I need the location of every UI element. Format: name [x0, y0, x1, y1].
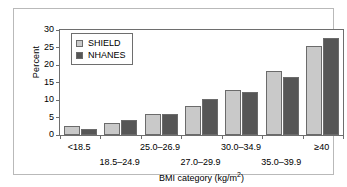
bar-nhanes: [121, 120, 137, 135]
y-axis-tick-mark: [56, 47, 60, 48]
legend-item-shield: SHIELD: [76, 37, 126, 49]
legend-swatch: [76, 52, 83, 59]
bar-shield: [185, 106, 201, 135]
x-axis-title: BMI category (kg/m2): [59, 171, 344, 183]
bar-group: [306, 30, 339, 135]
y-axis-tick-label: 5: [49, 112, 54, 122]
x-axis-title-base: BMI category (kg/m: [159, 173, 237, 183]
legend: SHIELDNHANES: [71, 33, 133, 65]
x-axis-category-label: ≥40: [314, 142, 329, 152]
bar-shield: [104, 123, 120, 135]
bar-shield: [64, 126, 80, 135]
bar-shield: [266, 71, 282, 135]
x-axis-tick-mark: [100, 135, 101, 139]
x-axis-tick-mark: [343, 135, 344, 139]
bar-nhanes: [283, 77, 299, 135]
bar-shield: [306, 46, 322, 135]
bar-nhanes: [323, 38, 339, 135]
legend-label: SHIELD: [88, 38, 121, 48]
x-axis-category-label: <18.5: [68, 142, 91, 152]
y-axis-tick-label: 10: [44, 94, 54, 104]
figure-frame: Percent 051015202530 BMI category (kg/m2…: [13, 8, 334, 175]
bar-group: [225, 30, 258, 135]
y-axis-tick-mark: [56, 100, 60, 101]
bar-shield: [145, 114, 161, 135]
legend-item-nhanes: NHANES: [76, 49, 126, 61]
x-axis-title-tail: ): [241, 173, 244, 183]
y-axis-tick-mark: [56, 65, 60, 66]
x-axis-tick-mark: [303, 135, 304, 139]
x-axis-category-label: 18.5–24.9: [100, 157, 140, 167]
bar-group: [145, 30, 178, 135]
x-axis-category-label: 27.0–29.9: [180, 157, 220, 167]
x-axis-category-label: 30.0–34.9: [221, 142, 261, 152]
y-axis-tick-mark: [56, 82, 60, 83]
y-axis-tick-label: 20: [44, 59, 54, 69]
y-axis-tick-label: 0: [49, 129, 54, 139]
legend-swatch: [76, 40, 83, 47]
figure: Percent 051015202530 BMI category (kg/m2…: [0, 0, 347, 187]
x-axis-tick-mark: [262, 135, 263, 139]
bar-group: [185, 30, 218, 135]
y-axis-tick-mark: [56, 117, 60, 118]
bar-shield: [225, 90, 241, 136]
x-axis-category-label: 35.0–39.9: [261, 157, 301, 167]
x-axis-category-label: 25.0–26.9: [140, 142, 180, 152]
x-axis-tick-mark: [222, 135, 223, 139]
bar-nhanes: [162, 114, 178, 135]
bar-nhanes: [242, 92, 258, 135]
x-axis-tick-mark: [181, 135, 182, 139]
bar-group: [266, 30, 299, 135]
y-axis-title: Percent: [31, 32, 41, 92]
y-axis-tick-label: 15: [44, 77, 54, 87]
x-axis-tick-mark: [141, 135, 142, 139]
bar-nhanes: [81, 129, 97, 135]
legend-label: NHANES: [88, 50, 126, 60]
x-axis-tick-mark: [60, 135, 61, 139]
y-axis-tick-mark: [56, 30, 60, 31]
y-axis-tick-label: 25: [44, 42, 54, 52]
bar-nhanes: [202, 99, 218, 135]
y-axis-tick-label: 30: [44, 24, 54, 34]
